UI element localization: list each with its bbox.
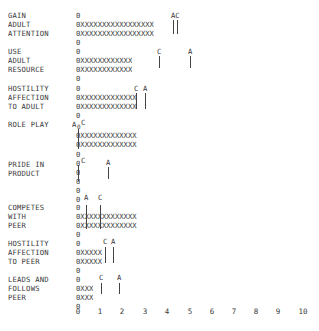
bar-host-adult: 0XXXXXXXXXXXXX [76, 93, 137, 102]
marker-ac-line [78, 129, 79, 149]
label-host-adult-1: HOSTILITY [8, 84, 49, 93]
label-use-3: RESOURCE [8, 65, 44, 74]
marker-a: A [84, 193, 88, 202]
marker-c: C [81, 156, 85, 165]
marker-a-line [173, 20, 174, 34]
zero-marker: 0 [76, 11, 80, 20]
x-tick-9: 9 [276, 307, 281, 316]
x-tick-5: 5 [188, 307, 193, 316]
bar-pride: 0 [76, 168, 80, 177]
label-host-peer-2: AFFECTION [8, 248, 49, 257]
label-role: ROLE PLAY [8, 120, 49, 129]
marker-c-line [136, 93, 137, 109]
x-tick-6: 6 [210, 307, 215, 316]
marker-c: C [103, 237, 107, 246]
bar-role: 0XXXXXXXXXXXXX [76, 140, 137, 149]
marker-a-line [145, 93, 146, 109]
marker-c: C [98, 193, 102, 202]
marker-a: A [143, 84, 147, 93]
bar-host-peer: 0XXXXX [76, 257, 102, 266]
x-tick-8: 8 [254, 307, 259, 316]
x-tick-7: 7 [232, 307, 237, 316]
marker-c: C [81, 118, 85, 127]
zero-marker: 0 [76, 239, 80, 248]
marker-c-line [177, 20, 178, 34]
zero-marker: 0 [76, 38, 80, 47]
bar-use: 0XXXXXXXXXXXX [76, 65, 132, 74]
text-bar-chart: GAIN ADULT ATTENTION 0 0XXXXXXXXXXXXXXXX… [0, 0, 319, 331]
label-use-2: ADULT [8, 56, 31, 65]
bar-leads: 0XXX [76, 293, 93, 302]
marker-a: A [106, 158, 110, 167]
label-pride-2: PRODUCT [8, 169, 40, 178]
x-tick-2: 2 [120, 307, 125, 316]
zero-marker: 0 [76, 230, 80, 239]
label-host-adult-3: TO ADULT [8, 102, 44, 111]
marker-a: A [72, 120, 76, 129]
x-tick-4: 4 [165, 307, 170, 316]
zero-marker: 0 [76, 203, 80, 212]
bar-host-peer: 0XXXXX [76, 248, 102, 257]
marker-c: C [99, 273, 103, 282]
label-host-peer-3: TO PEER [8, 257, 40, 266]
label-leads-1: LEADS AND [8, 275, 49, 284]
zero-marker: 0 [76, 111, 80, 120]
marker-a: A [188, 47, 192, 56]
zero-marker: 0 [76, 84, 80, 93]
zero-marker: 0 [76, 74, 80, 83]
zero-marker: 0 [76, 275, 80, 284]
label-pride-1: PRIDE IN [8, 160, 44, 169]
zero-marker: 0 [76, 150, 80, 159]
label-use-1: USE [8, 47, 22, 56]
zero-marker: 0 [76, 266, 80, 275]
label-gain-2: ADULT [8, 20, 31, 29]
bar-role: 0XXXXXXXXXXXXX [76, 131, 137, 140]
marker-a-line [190, 56, 191, 68]
marker-a-line [113, 247, 114, 263]
marker-ac: AC [171, 11, 180, 20]
bar-gain: 0XXXXXXXXXXXXXXXXX [76, 29, 154, 38]
label-leads-3: PEER [8, 293, 26, 302]
x-tick-10: 10 [298, 307, 307, 316]
bar-gain: 0XXXXXXXXXXXXXXXXX [76, 20, 154, 29]
marker-c-line [105, 247, 106, 263]
label-gain-1: GAIN [8, 11, 26, 20]
bar-leads: 0XXX [76, 284, 93, 293]
x-tick-3: 3 [143, 307, 148, 316]
marker-a-line [119, 283, 120, 294]
marker-a-line [108, 167, 109, 179]
marker-a: A [117, 273, 121, 282]
x-tick-1: 1 [98, 307, 103, 316]
label-competes-2: WITH [8, 212, 26, 221]
marker-c: C [134, 84, 138, 93]
marker-c: C [157, 47, 161, 56]
zero-marker: 0 [76, 186, 80, 195]
label-gain-3: ATTENTION [8, 29, 49, 38]
marker-c-line [159, 56, 160, 68]
bar-host-adult: 0XXXXXXXXXXXXX [76, 102, 137, 111]
label-competes-1: COMPETES [8, 203, 44, 212]
label-competes-3: PEER [8, 221, 26, 230]
marker-a-line [86, 205, 87, 229]
x-tick-0: 0 [76, 307, 81, 316]
label-host-peer-1: HOSTILITY [8, 239, 49, 248]
bar-use: 0XXXXXXXXXXXX [76, 56, 132, 65]
label-leads-2: FOLLOWS [8, 284, 40, 293]
zero-marker: 0 [76, 47, 80, 56]
marker-c-line [100, 205, 101, 229]
label-host-adult-2: AFFECTION [8, 93, 49, 102]
marker-a: A [111, 237, 115, 246]
bar-pride: 0 [76, 177, 80, 186]
marker-c-line [101, 283, 102, 294]
